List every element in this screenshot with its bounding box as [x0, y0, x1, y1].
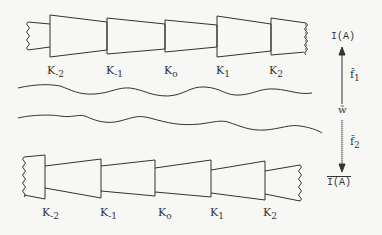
- w-label: w̃: [338, 104, 347, 115]
- label-sub: 2: [354, 140, 360, 150]
- bottom-label-k-minus-2: K-2: [42, 206, 59, 221]
- label-sub: -1: [114, 69, 123, 79]
- top-label-k-minus-1: K-1: [106, 64, 123, 79]
- bottom-i-a-bar-label: I(A): [327, 177, 351, 188]
- label-base: K: [106, 64, 114, 77]
- label-base: K: [164, 64, 172, 77]
- label-sub: -1: [108, 211, 117, 221]
- label-base: K: [210, 206, 218, 219]
- label-sub: 2: [271, 211, 277, 221]
- label-sub: -2: [50, 211, 59, 221]
- label-base: K: [216, 64, 224, 77]
- f1-label: f̃1: [350, 68, 360, 83]
- top-i-a-label: I(A): [331, 31, 355, 42]
- label-base: K: [263, 206, 271, 219]
- label-sub: 2: [277, 69, 283, 79]
- label-base: K: [100, 206, 108, 219]
- bottom-label-k-minus-1: K-1: [100, 206, 117, 221]
- bottom-row-segments: [23, 155, 302, 201]
- label-sub: 1: [224, 69, 230, 79]
- label-base: K: [158, 206, 166, 219]
- label-sub: 1: [354, 73, 360, 83]
- label-sub: o: [172, 69, 177, 79]
- label-base: K: [42, 206, 50, 219]
- diagram-canvas: [0, 0, 382, 235]
- label-sub: o: [166, 211, 171, 221]
- label-base: K: [47, 64, 55, 77]
- bottom-label-k-0: Ko: [158, 206, 172, 221]
- f2-label: f̃2: [350, 135, 360, 150]
- top-label-k-2: K2: [269, 64, 283, 79]
- top-label-k-0: Ko: [164, 64, 178, 79]
- label-base: K: [269, 64, 277, 77]
- top-label-k-1: K1: [216, 64, 230, 79]
- bottom-label-k-2: K2: [263, 206, 277, 221]
- top-label-k-minus-2: K-2: [47, 64, 64, 79]
- label-sub: 1: [218, 211, 224, 221]
- wavy-lines: [18, 85, 322, 133]
- label-sub: -2: [55, 69, 64, 79]
- bottom-label-k-1: K1: [210, 206, 224, 221]
- top-row-segments: [27, 15, 308, 57]
